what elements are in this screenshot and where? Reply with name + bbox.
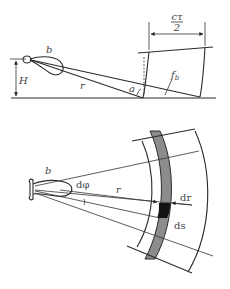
range-label: r [80, 80, 86, 91]
footprint-pointer [165, 79, 172, 95]
range-step-arrow [172, 203, 192, 205]
far-range-arc [200, 47, 205, 97]
range-label: r [116, 184, 122, 195]
angle-label: a [129, 83, 135, 94]
antenna-icon [23, 56, 31, 63]
height-label: H [18, 75, 28, 86]
beam-lobe [33, 180, 72, 196]
plan-view-diagram: b dφ r dr ds [29, 129, 213, 273]
beam-label: b [46, 44, 52, 55]
side-view-diagram: H b r a fb cτ 2 [10, 11, 216, 98]
beam-label: b [45, 165, 51, 176]
range-arrow [60, 190, 157, 202]
range-step-label: dr [180, 192, 191, 203]
radar-geometry-figure: H b r a fb cτ 2 [0, 0, 230, 289]
range-cell-numerator: cτ [171, 11, 183, 22]
inner-arc [137, 141, 152, 247]
near-beam-edge [31, 60, 143, 98]
area-element-label: ds [174, 220, 186, 231]
azimuth-step-label: dφ [76, 179, 89, 190]
ray-lower-inner [35, 191, 160, 218]
angle-arc [137, 89, 141, 95]
antenna-icon [29, 179, 33, 200]
range-cell-denominator: 2 [173, 22, 180, 33]
